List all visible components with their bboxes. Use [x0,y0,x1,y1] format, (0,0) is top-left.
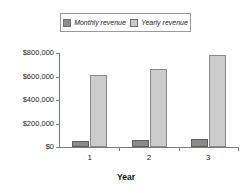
x-axis-tick [119,147,120,151]
x-axis-tick [238,147,239,151]
yearly-swatch-icon [130,19,138,27]
bar-yearly-revenue-year-2 [150,69,167,147]
x-axis-tick-label: 2 [147,154,151,162]
x-axis-tick [179,147,180,151]
monthly-swatch-icon [63,19,71,27]
y-axis-tick [56,124,60,125]
legend-entry-yearly-revenue: Yearly revenue [130,19,188,27]
x-axis-tick-label: 1 [87,154,91,162]
y-axis-tick [56,77,60,78]
y-axis-tick-label: $800,000 [23,49,54,57]
legend-label-monthly: Monthly revenue [74,19,126,26]
legend-label-yearly: Yearly revenue [141,19,188,26]
y-axis-tick [56,53,60,54]
bar-yearly-revenue-year-1 [90,75,107,147]
bar-monthly-revenue-year-1 [72,141,89,147]
y-axis-tick [56,147,60,148]
y-axis-tick-label: $0 [46,143,54,151]
x-axis-tick-label: 3 [206,154,210,162]
legend-entry-monthly-revenue: Monthly revenue [63,19,126,27]
bar-yearly-revenue-year-3 [209,55,226,147]
x-axis-title: Year [0,173,252,182]
bar-monthly-revenue-year-2 [132,140,149,147]
y-axis-tick-label: $400,000 [23,96,54,104]
plot-area: $0$200,000$400,000$600,000$800,000123 [59,53,238,148]
y-axis-tick-label: $600,000 [23,73,54,81]
chart-legend: Monthly revenue Yearly revenue [60,13,191,32]
bar-monthly-revenue-year-3 [191,139,208,147]
y-axis-tick [56,100,60,101]
revenue-bar-chart: Monthly revenue Yearly revenue $0$200,00… [0,0,252,193]
y-axis-tick-label: $200,000 [23,120,54,128]
